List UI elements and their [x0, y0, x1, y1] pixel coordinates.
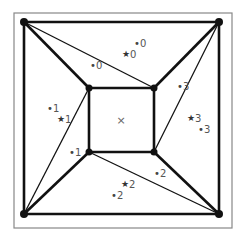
node-outer-bl [20, 210, 28, 218]
star-label: ★3 [187, 113, 201, 124]
thick-edge [154, 152, 219, 214]
star-icon: ★ [187, 113, 195, 123]
star-icon: ★ [122, 49, 130, 59]
node-inner-br [151, 149, 158, 156]
thick-edge [24, 22, 89, 88]
star-icon: ★ [57, 114, 65, 124]
thick-edge [24, 152, 89, 214]
node-outer-tr [215, 18, 223, 26]
dot-label: •3 [177, 81, 189, 92]
star-label: ★2 [121, 179, 135, 190]
node-inner-tr [151, 85, 158, 92]
center-cross-icon: × [116, 114, 125, 127]
dot-label: •0 [134, 38, 146, 49]
dot-label: •3 [198, 124, 210, 135]
dot-label: •1 [47, 103, 59, 114]
graph-diagram: × •0★0•0•1★1•1•3★3•3•2★2•2 [0, 0, 239, 235]
star-label: ★0 [122, 49, 136, 60]
dot-label: •0 [90, 60, 102, 71]
point-labels: •0★0•0•1★1•1•3★3•3•2★2•2 [47, 38, 210, 201]
thin-edge [89, 152, 219, 214]
node-inner-bl [86, 149, 93, 156]
node-inner-tl [86, 85, 93, 92]
node-outer-br [215, 210, 223, 218]
node-outer-tl [20, 18, 28, 26]
dot-label: •1 [69, 147, 81, 158]
dot-label: •2 [154, 168, 166, 179]
star-icon: ★ [121, 179, 129, 189]
thick-edge [154, 22, 219, 88]
star-label: ★1 [57, 114, 71, 125]
dot-label: •2 [111, 190, 123, 201]
